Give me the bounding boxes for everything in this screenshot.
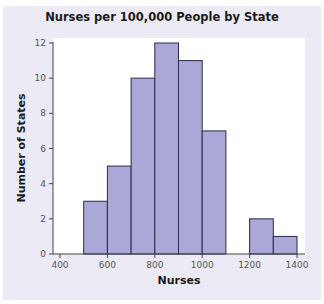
y-tick-label: 4 [40, 179, 46, 189]
y-tick-label: 2 [40, 214, 46, 224]
x-tick-label: 1000 [191, 260, 214, 270]
histogram-chart: 024681012400600800100012001400 Nurses Nu… [0, 0, 324, 304]
x-tick-label: 800 [146, 260, 163, 270]
histogram-bar [179, 61, 203, 254]
histogram-bar [131, 78, 155, 254]
x-axis-label: Nurses [157, 274, 200, 287]
histogram-bar [84, 201, 108, 254]
histogram-bar [155, 43, 179, 254]
y-tick-label: 0 [40, 249, 46, 259]
y-tick-label: 10 [35, 73, 47, 83]
y-axis-label: Number of States [15, 93, 28, 203]
x-tick-label: 400 [51, 260, 68, 270]
histogram-bar [107, 166, 131, 254]
y-tick-label: 6 [40, 144, 46, 154]
y-tick-label: 8 [40, 108, 46, 118]
histogram-bar [202, 131, 226, 254]
histogram-bar [250, 219, 274, 254]
x-tick-label: 600 [99, 260, 116, 270]
histogram-bars [84, 43, 297, 254]
x-tick-label: 1400 [286, 260, 309, 270]
y-tick-label: 12 [35, 38, 46, 48]
histogram-bar [273, 236, 297, 254]
x-tick-label: 1200 [238, 260, 261, 270]
